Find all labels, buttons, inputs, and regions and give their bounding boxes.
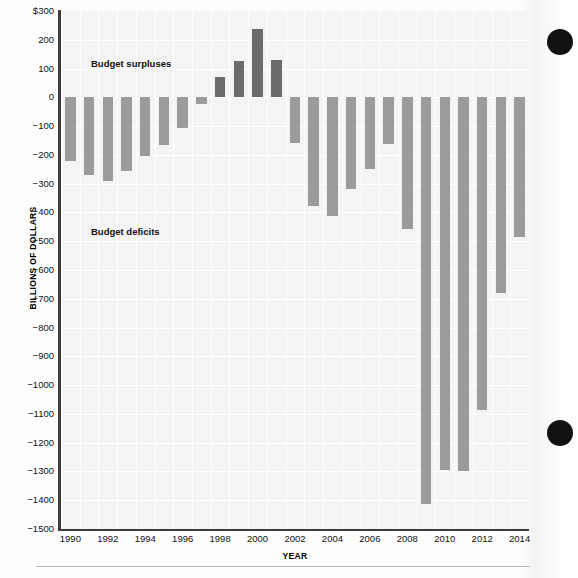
y-tick-label: −200 bbox=[2, 149, 54, 160]
x-tick-label: 2004 bbox=[311, 533, 353, 544]
y-tick-label: 100 bbox=[2, 63, 54, 74]
gridline-vertical bbox=[248, 11, 249, 529]
gridline-vertical bbox=[267, 11, 268, 529]
gridline-vertical bbox=[342, 11, 343, 529]
bar-2001 bbox=[271, 60, 281, 97]
x-tick-label: 1996 bbox=[162, 533, 204, 544]
binder-hole-bottom bbox=[547, 420, 573, 446]
gridline-vertical bbox=[117, 11, 118, 529]
bar-2004 bbox=[327, 97, 337, 216]
y-tick-label: −1100 bbox=[2, 408, 54, 419]
gridline-vertical bbox=[323, 11, 324, 529]
gridline-vertical bbox=[492, 11, 493, 529]
gridline-vertical bbox=[173, 11, 174, 529]
y-tick-label: $300 bbox=[2, 5, 54, 16]
x-tick-label: 2008 bbox=[386, 533, 428, 544]
bar-2013 bbox=[496, 97, 506, 293]
x-tick-label: 2002 bbox=[274, 533, 316, 544]
binder-hole-top bbox=[547, 29, 573, 55]
bar-1996 bbox=[177, 97, 187, 128]
bar-2012 bbox=[477, 97, 487, 410]
x-tick-label: 1990 bbox=[49, 533, 91, 544]
bar-2002 bbox=[290, 97, 300, 142]
bar-1997 bbox=[196, 97, 206, 103]
gridline-vertical bbox=[417, 11, 418, 529]
gridline-horizontal bbox=[61, 500, 529, 501]
bar-2006 bbox=[365, 97, 375, 168]
bar-2007 bbox=[383, 97, 393, 143]
gridline-vertical bbox=[155, 11, 156, 529]
bar-1993 bbox=[121, 97, 131, 170]
gridline-vertical bbox=[61, 11, 62, 529]
y-tick-label: −1300 bbox=[2, 465, 54, 476]
y-tick-label: 200 bbox=[2, 34, 54, 45]
bar-2008 bbox=[402, 97, 412, 229]
y-tick-label: −500 bbox=[2, 235, 54, 246]
y-tick-label: −100 bbox=[2, 120, 54, 131]
gridline-vertical bbox=[136, 11, 137, 529]
y-tick-label: 0 bbox=[2, 91, 54, 102]
gridline-vertical bbox=[192, 11, 193, 529]
x-tick-label: 2014 bbox=[499, 533, 541, 544]
y-tick-label: −400 bbox=[2, 206, 54, 217]
bar-2000 bbox=[252, 29, 262, 97]
x-axis-title: YEAR bbox=[61, 551, 529, 561]
bar-2009 bbox=[421, 97, 431, 504]
bar-1995 bbox=[159, 97, 169, 144]
bar-1999 bbox=[234, 61, 244, 97]
y-tick-label: −1400 bbox=[2, 494, 54, 505]
y-tick-label: −600 bbox=[2, 264, 54, 275]
y-tick-label: −800 bbox=[2, 322, 54, 333]
bar-1991 bbox=[84, 97, 94, 174]
bar-1994 bbox=[140, 97, 150, 155]
x-tick-label: 2006 bbox=[349, 533, 391, 544]
plot-area: Budget surpluses Budget deficits bbox=[61, 11, 529, 529]
gridline-vertical bbox=[379, 11, 380, 529]
y-tick-label: −1200 bbox=[2, 437, 54, 448]
y-tick-label: −300 bbox=[2, 178, 54, 189]
annotation-budget-deficits: Budget deficits bbox=[91, 226, 160, 237]
x-axis-line bbox=[58, 529, 529, 531]
gridline-vertical bbox=[398, 11, 399, 529]
bar-2005 bbox=[346, 97, 356, 189]
gridline-vertical bbox=[435, 11, 436, 529]
bar-2010 bbox=[440, 97, 450, 469]
gridline-vertical bbox=[304, 11, 305, 529]
x-tick-label: 2012 bbox=[461, 533, 503, 544]
bar-2011 bbox=[458, 97, 468, 471]
gridline-vertical bbox=[454, 11, 455, 529]
bar-2003 bbox=[308, 97, 318, 206]
y-axis-title: BILLIONS OF DOLLARS bbox=[28, 178, 38, 338]
bar-1990 bbox=[65, 97, 75, 161]
gridline-vertical bbox=[473, 11, 474, 529]
bar-2014 bbox=[514, 97, 524, 237]
x-tick-label: 1994 bbox=[124, 533, 166, 544]
annotation-budget-surpluses: Budget surpluses bbox=[91, 58, 171, 69]
gridline-horizontal bbox=[61, 471, 529, 472]
gridline-vertical bbox=[510, 11, 511, 529]
gridline-vertical bbox=[211, 11, 212, 529]
y-tick-label: −700 bbox=[2, 293, 54, 304]
y-tick-label: −1000 bbox=[2, 379, 54, 390]
y-tick-label: −1500 bbox=[2, 523, 54, 534]
gridline-vertical bbox=[361, 11, 362, 529]
gridline-vertical bbox=[229, 11, 230, 529]
x-tick-label: 2000 bbox=[237, 533, 279, 544]
footer-divider bbox=[36, 566, 530, 567]
x-tick-label: 2010 bbox=[424, 533, 466, 544]
y-tick-label: −900 bbox=[2, 350, 54, 361]
x-tick-label: 1992 bbox=[87, 533, 129, 544]
gridline-vertical bbox=[98, 11, 99, 529]
figure-canvas: BILLIONS OF DOLLARS YEAR $3002001000−100… bbox=[0, 0, 578, 578]
bar-1998 bbox=[215, 77, 225, 97]
gridline-horizontal bbox=[61, 40, 529, 41]
gridline-vertical bbox=[286, 11, 287, 529]
x-tick-label: 1998 bbox=[199, 533, 241, 544]
gridline-vertical bbox=[80, 11, 81, 529]
bar-1992 bbox=[103, 97, 113, 180]
